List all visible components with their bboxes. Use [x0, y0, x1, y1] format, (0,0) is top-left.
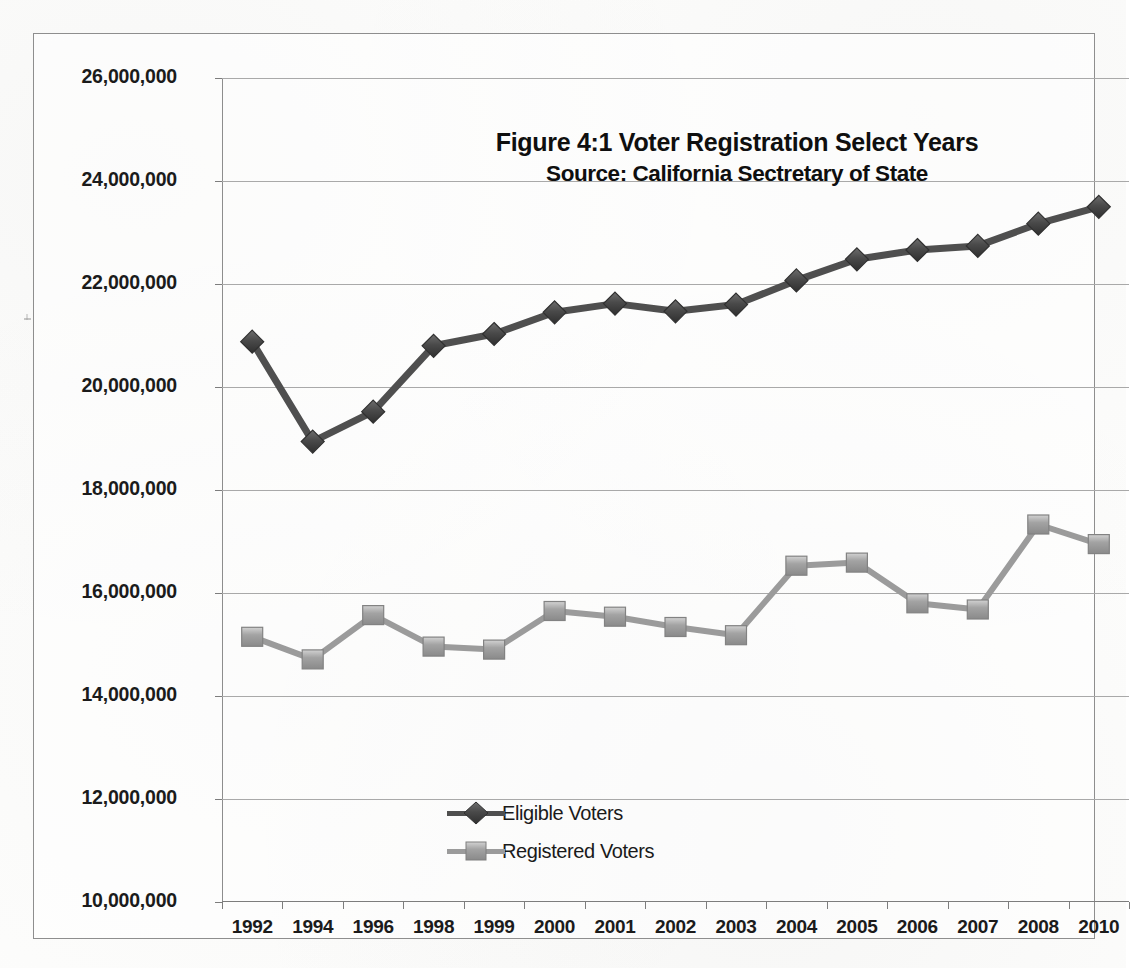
y-axis-tick: [215, 696, 222, 697]
data-point-marker: [1087, 195, 1110, 218]
data-point-marker: [665, 618, 686, 637]
legend-marker-diamond-icon: [447, 801, 505, 825]
data-point-marker: [785, 269, 808, 292]
x-axis-label: 1999: [464, 916, 524, 938]
x-axis-tick: [766, 902, 767, 909]
x-axis-tick: [827, 902, 828, 909]
series-eligible-voters: [241, 195, 1111, 453]
y-axis-label: 14,000,000: [27, 683, 177, 706]
series-layer: [222, 78, 1129, 902]
x-axis-tick: [645, 902, 646, 909]
x-axis-label: 1996: [343, 916, 403, 938]
y-axis-label: 24,000,000: [27, 168, 177, 191]
y-axis-label: 18,000,000: [27, 477, 177, 500]
legend-label-registered-voters: Registered Voters: [502, 840, 654, 863]
x-axis-label: 2004: [766, 916, 826, 938]
data-point-marker: [907, 594, 928, 613]
x-axis-label: 1994: [282, 916, 342, 938]
x-axis-tick: [403, 902, 404, 909]
x-axis-tick: [1069, 902, 1070, 909]
y-axis-tick: [215, 902, 222, 903]
x-axis-tick: [222, 902, 223, 909]
data-point-marker: [484, 640, 505, 659]
chart-legend: Eligible Voters Registered Voters: [447, 794, 777, 870]
x-axis-label: 2002: [645, 916, 705, 938]
x-axis-tick: [706, 902, 707, 909]
data-point-marker: [846, 553, 867, 572]
chart-figure: 26,000,00024,000,00022,000,00020,000,000…: [33, 33, 1095, 939]
data-point-marker: [302, 650, 323, 669]
x-axis-tick: [464, 902, 465, 909]
data-point-marker: [906, 239, 929, 262]
data-point-marker: [1027, 212, 1050, 235]
series-line: [252, 525, 1099, 660]
y-axis-tick: [215, 78, 222, 79]
y-axis-label: 12,000,000: [27, 786, 177, 809]
y-axis-tick: [215, 387, 222, 388]
data-point-marker: [664, 300, 687, 323]
y-axis-label: 22,000,000: [27, 271, 177, 294]
data-point-marker: [1088, 535, 1109, 554]
x-axis-label: 2008: [1008, 916, 1068, 938]
x-axis-label: 2005: [827, 916, 887, 938]
data-point-marker: [605, 607, 626, 626]
plot-area: 26,000,00024,000,00022,000,00020,000,000…: [222, 78, 1129, 902]
x-axis-tick: [1008, 902, 1009, 909]
x-axis-label: 2007: [948, 916, 1008, 938]
x-axis-label: 2003: [706, 916, 766, 938]
y-axis-label: 26,000,000: [27, 65, 177, 88]
x-axis-tick: [282, 902, 283, 909]
x-axis-label: 1998: [403, 916, 463, 938]
data-point-marker: [845, 248, 868, 271]
y-axis-label: 16,000,000: [27, 580, 177, 603]
x-axis-tick: [887, 902, 888, 909]
x-axis-tick: [948, 902, 949, 909]
data-point-marker: [543, 301, 566, 324]
series-registered-voters: [242, 515, 1110, 669]
x-axis-label: 2000: [524, 916, 584, 938]
y-axis-label: 20,000,000: [27, 374, 177, 397]
page-artifact: [26, 314, 28, 320]
data-point-marker: [726, 626, 747, 645]
x-axis-label: 2010: [1069, 916, 1129, 938]
data-point-marker: [786, 556, 807, 575]
legend-marker-square-icon: [447, 839, 505, 863]
data-point-marker: [967, 600, 988, 619]
y-axis-tick: [215, 181, 222, 182]
data-point-marker: [1028, 515, 1049, 534]
y-axis-tick: [215, 284, 222, 285]
data-point-marker: [604, 292, 627, 315]
data-point-marker: [966, 234, 989, 257]
y-axis-tick: [215, 593, 222, 594]
x-axis-label: 1992: [222, 916, 282, 938]
x-axis-tick: [343, 902, 344, 909]
data-point-marker: [725, 293, 748, 316]
x-axis-tick: [585, 902, 586, 909]
data-point-marker: [544, 602, 565, 621]
data-point-marker: [483, 323, 506, 346]
x-axis-label: 2001: [585, 916, 645, 938]
legend-item-eligible-voters: Eligible Voters: [447, 794, 777, 832]
legend-item-registered-voters: Registered Voters: [447, 832, 777, 870]
y-axis-tick: [215, 799, 222, 800]
legend-label-eligible-voters: Eligible Voters: [502, 802, 623, 825]
x-axis-tick: [524, 902, 525, 909]
data-point-marker: [242, 627, 263, 646]
data-point-marker: [363, 606, 384, 625]
x-axis-label: 2006: [887, 916, 947, 938]
data-point-marker: [423, 637, 444, 656]
y-axis-tick: [215, 490, 222, 491]
y-axis-label: 10,000,000: [27, 889, 177, 912]
